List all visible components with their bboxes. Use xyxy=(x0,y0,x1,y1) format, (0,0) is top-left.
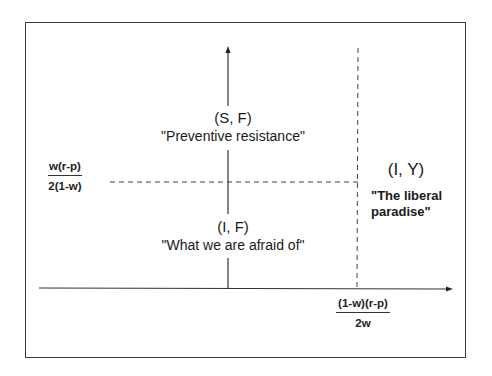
y-threshold-denominator: 2(1-w) xyxy=(48,176,82,192)
region-s-f: (S, F) "Preventive resistance" xyxy=(148,109,318,144)
region-i-f-pair: (I, F) xyxy=(148,218,318,235)
x-threshold-numerator: (1-w)(r-p) xyxy=(336,297,390,313)
region-i-y-label-line1: "The liberal xyxy=(371,188,442,204)
y-axis-arrowhead-icon xyxy=(226,46,231,53)
region-s-f-label: "Preventive resistance" xyxy=(148,128,318,144)
x-threshold-denominator: 2w xyxy=(336,313,390,329)
x-threshold-dashed-line xyxy=(357,48,358,288)
region-s-f-pair: (S, F) xyxy=(148,109,318,126)
x-axis xyxy=(39,288,447,289)
y-threshold-numerator: w(r-p) xyxy=(48,160,82,176)
region-i-y-label-line2: paradise" xyxy=(371,204,442,220)
region-i-y: (I, Y) "The liberal paradise" xyxy=(371,160,442,220)
x-threshold-fraction: (1-w)(r-p) 2w xyxy=(336,297,390,329)
x-axis-arrowhead-icon xyxy=(446,287,453,292)
region-i-f: (I, F) "What we are afraid of" xyxy=(148,218,318,253)
region-i-y-pair: (I, Y) xyxy=(371,160,441,180)
region-i-f-label: "What we are afraid of" xyxy=(148,237,318,253)
y-threshold-fraction: w(r-p) 2(1-w) xyxy=(48,160,82,192)
